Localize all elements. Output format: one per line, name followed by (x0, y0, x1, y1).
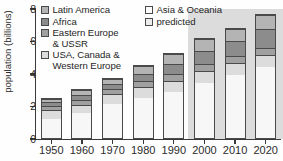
bar-segment (164, 81, 183, 92)
bar-1960 (71, 89, 92, 139)
bar-1990 (163, 53, 184, 139)
bar-1950 (41, 98, 62, 139)
bar-2000 (194, 38, 215, 139)
bar-segment (256, 15, 275, 29)
bar-segment (256, 55, 275, 67)
legend-item: Africa (41, 17, 145, 28)
legend-column-right: Asia & Oceaniapredicted (145, 5, 237, 28)
bar-segment (134, 98, 153, 138)
bar-1980 (133, 65, 154, 139)
bar-segment (195, 64, 214, 71)
bar-segment (134, 74, 153, 81)
bar-2010 (225, 28, 246, 139)
bar-segment (226, 56, 245, 63)
bar-segment (164, 74, 183, 81)
legend-column-left: Latin AmericaAfricaEastern Europe & USSR… (41, 5, 145, 72)
bar-segment (226, 75, 245, 138)
y-tick-label-6: 6 (10, 36, 36, 46)
bar-segment (134, 87, 153, 97)
legend-item: Asia & Oceania (145, 5, 237, 16)
population-stacked-bar-chart: 02468 population (billions) Latin Americ… (0, 0, 283, 161)
bar-segment (256, 67, 275, 138)
y-axis-title: population (billions) (2, 0, 13, 111)
legend-label: Africa (53, 17, 77, 28)
bar-1970 (102, 78, 123, 139)
legend-label: USA, Canada & Western Europe (53, 50, 121, 71)
bar-segment (103, 104, 122, 138)
legend-swatch-icon (41, 29, 49, 37)
legend-swatch-icon (41, 6, 49, 14)
bar-segment (195, 39, 214, 51)
legend-label: Asia & Oceania (157, 5, 222, 16)
legend-item: predicted (145, 17, 237, 28)
legend-swatch-icon (41, 18, 49, 26)
legend-label: predicted (157, 17, 196, 28)
bar-segment (195, 71, 214, 83)
bar-segment (72, 113, 91, 138)
bar-segment (42, 110, 61, 119)
legend-swatch-icon (145, 6, 153, 14)
x-axis-line (35, 139, 281, 140)
legend-item: Latin America (41, 5, 145, 16)
y-tick-label-8: 8 (10, 4, 36, 14)
y-tick-label-2: 2 (10, 101, 36, 111)
bar-segment (164, 64, 183, 74)
bar-segment (226, 41, 245, 55)
legend-item: USA, Canada & Western Europe (41, 50, 145, 71)
x-tick-label-2020: 2020 (246, 144, 283, 156)
bar-segment (164, 92, 183, 138)
legend-label: Eastern Europe & USSR (53, 28, 119, 49)
y-tick-label-0: 0 (10, 134, 36, 144)
bar-segment (256, 48, 275, 55)
bar-segment (164, 54, 183, 64)
bar-segment (103, 94, 122, 103)
bar-2020 (255, 14, 276, 139)
bar-segment (42, 119, 61, 138)
legend-item: Eastern Europe & USSR (41, 28, 145, 49)
legend-label: Latin America (53, 5, 110, 16)
legend-swatch-icon (145, 18, 153, 26)
y-tick-label-4: 4 (10, 69, 36, 79)
bar-segment (195, 83, 214, 138)
bar-segment (226, 63, 245, 75)
bar-segment (195, 51, 214, 64)
legend-swatch-icon (41, 51, 49, 59)
bar-segment (256, 29, 275, 47)
bar-segment (72, 105, 91, 114)
bar-segment (226, 29, 245, 42)
